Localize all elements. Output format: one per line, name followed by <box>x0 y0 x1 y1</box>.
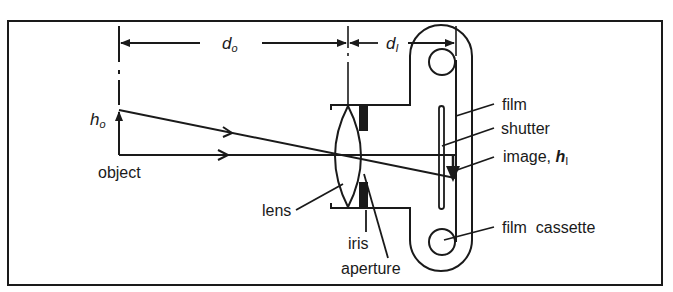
object-distance-label: do <box>222 34 238 54</box>
object-distance-dimension: do <box>121 34 346 54</box>
iris-upper <box>359 105 368 131</box>
leader-lines <box>296 104 494 258</box>
image-label: image, hI <box>503 148 568 167</box>
object-height-label: ho <box>90 110 106 130</box>
film-cassette-label: film cassette <box>502 219 595 236</box>
camera-diagram: do dI ho <box>0 0 673 292</box>
light-rays <box>119 110 457 178</box>
lower-film-spool <box>429 229 455 255</box>
image-distance-dimension: dI <box>350 34 454 54</box>
shutter <box>439 106 444 209</box>
film-label: film <box>502 96 527 113</box>
iris-label: iris <box>348 235 368 252</box>
aperture-label: aperture <box>341 260 401 277</box>
shutter-label: shutter <box>501 120 551 137</box>
image-distance-label: dI <box>386 34 399 54</box>
upper-film-spool <box>429 49 455 75</box>
object-label: object <box>98 164 141 181</box>
lens-label: lens <box>262 202 291 219</box>
image-arrow <box>446 155 460 182</box>
